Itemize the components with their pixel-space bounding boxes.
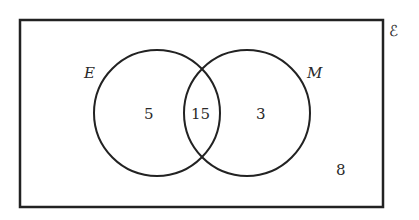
m-only-count: 3 bbox=[256, 105, 266, 123]
e-only-count: 5 bbox=[144, 105, 154, 123]
venn-diagram: ℰ E M 5 15 3 8 bbox=[0, 0, 419, 220]
set-m-label: M bbox=[306, 64, 323, 82]
intersection-count: 15 bbox=[191, 105, 210, 123]
set-e-label: E bbox=[83, 64, 95, 82]
universal-set-label: ℰ bbox=[389, 22, 398, 40]
outside-count: 8 bbox=[336, 161, 346, 179]
